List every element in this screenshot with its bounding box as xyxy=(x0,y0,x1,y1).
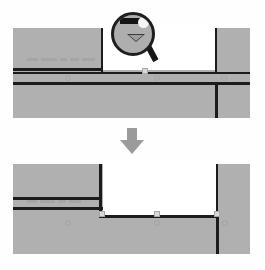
figure-canvas: Layout change: content panel expands aft… xyxy=(0,0,265,270)
before-resize-handle[interactable] xyxy=(142,68,148,74)
after-handle-dot[interactable] xyxy=(65,220,71,226)
before-sidebar-bottom-rule xyxy=(13,68,101,71)
after-resize-handle[interactable] xyxy=(154,211,160,217)
after-resize-handle[interactable] xyxy=(214,211,220,217)
after-placeholder-text xyxy=(27,200,81,203)
after-right-rail-rule xyxy=(216,215,219,254)
magnifier-glass xyxy=(111,12,155,56)
after-sidebar-second-rule xyxy=(13,207,103,210)
before-row-divider-rule xyxy=(13,72,250,74)
after-handle-dot[interactable] xyxy=(222,220,228,226)
after-panel xyxy=(13,164,250,254)
arrow-head xyxy=(120,140,144,154)
glass-highlight xyxy=(138,17,149,28)
before-handle-dot[interactable] xyxy=(154,75,160,81)
before-handle-dot[interactable] xyxy=(65,75,71,81)
before-right-rail-rule xyxy=(215,82,218,118)
before-viewport-right-rule xyxy=(215,28,217,72)
after-content-viewport xyxy=(103,164,216,215)
before-viewport-left-rule xyxy=(101,28,103,72)
before-placeholder-text xyxy=(27,58,95,61)
arrow-down-icon xyxy=(118,128,146,156)
after-sidebar-bottom-rule xyxy=(13,197,101,200)
after-resize-handle[interactable] xyxy=(99,211,105,217)
chevron-down-icon-inner xyxy=(129,35,143,41)
after-viewport-right-rule xyxy=(216,164,218,217)
after-handle-dot[interactable] xyxy=(154,220,160,226)
magnifier-icon[interactable] xyxy=(111,12,163,64)
before-handle-dot[interactable] xyxy=(221,75,227,81)
